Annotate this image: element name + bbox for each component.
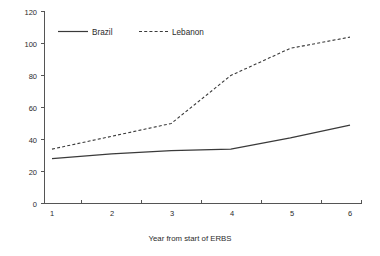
y-tick-label-120: 120 [24,8,37,17]
x-tick-label-5: 5 [290,209,294,218]
x-tick-label-2: 2 [110,209,114,218]
series-line-lebanon [52,37,350,149]
x-tick-label-3: 3 [170,209,174,218]
y-tick-label-80: 80 [29,72,37,81]
x-axis-title: Year from start of ERBS [149,234,232,243]
y-axis-ticks [41,12,45,204]
y-axis-tick-labels: 0 20 40 60 80 100 120 [24,8,37,209]
x-tick-label-4: 4 [230,209,234,218]
y-tick-label-0: 0 [33,200,37,209]
x-tick-label-1: 1 [50,209,54,218]
x-axis-ticks [82,200,362,204]
y-tick-label-100: 100 [24,40,37,49]
series-line-brazil [52,125,350,159]
x-axis-tick-labels: 1 2 3 4 5 6 [50,209,352,218]
y-tick-label-60: 60 [29,104,37,113]
line-chart: 0 20 40 60 80 100 120 1 2 3 4 5 6 Year [0,0,380,256]
legend-label-brazil: Brazil [92,28,113,37]
y-tick-label-20: 20 [29,168,37,177]
chart-canvas: 0 20 40 60 80 100 120 1 2 3 4 5 6 Year [0,0,380,256]
y-tick-label-40: 40 [29,136,37,145]
chart-legend: Brazil Lebanon [58,28,204,37]
legend-label-lebanon: Lebanon [172,28,204,37]
x-tick-label-6: 6 [348,209,352,218]
